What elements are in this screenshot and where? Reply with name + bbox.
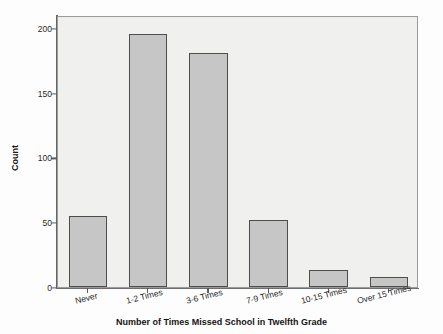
y-tick: 0 <box>28 288 52 298</box>
y-tick-label: 150 <box>28 89 52 99</box>
bar <box>249 220 288 287</box>
x-tick-label: 3-6 Times <box>185 287 224 306</box>
x-tick-label: 1-2 Times <box>125 287 164 306</box>
y-tick: 150 <box>28 94 52 104</box>
y-tick-label: 0 <box>28 283 52 293</box>
bar <box>69 216 108 287</box>
plot-area <box>57 16 418 288</box>
x-axis-line <box>56 288 419 290</box>
y-tick: 200 <box>28 29 52 39</box>
y-tick: 100 <box>28 158 52 168</box>
bar <box>189 53 228 287</box>
y-axis-label: Count <box>8 128 22 188</box>
x-tick-label: 7-9 Times <box>245 287 284 306</box>
y-tick-label: 100 <box>28 153 52 163</box>
y-tick: 50 <box>28 223 52 233</box>
x-tick-label: Never <box>74 291 98 306</box>
x-axis-label: Number of Times Missed School in Twelfth… <box>0 317 443 327</box>
bar-chart-figure: Count 050100150200 Never1-2 Times3-6 Tim… <box>0 0 443 334</box>
y-tick-label: 50 <box>28 218 52 228</box>
bar <box>129 34 168 287</box>
y-tick-label: 200 <box>28 24 52 34</box>
